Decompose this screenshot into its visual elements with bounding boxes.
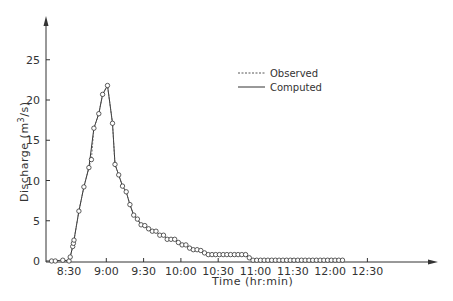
- x-tick-label: 12:30: [352, 265, 384, 278]
- x-tick-label: 9:00: [94, 265, 119, 278]
- y-tick-label: 5: [33, 215, 40, 228]
- observed-marker: [97, 112, 101, 116]
- observed-marker: [110, 121, 114, 125]
- observed-marker: [87, 165, 91, 169]
- observed-marker: [92, 126, 96, 130]
- observed-marker: [173, 237, 177, 241]
- x-axis-title: Time (hr:min): [211, 275, 293, 288]
- observed-marker: [154, 229, 158, 233]
- observed-marker: [61, 258, 65, 262]
- observed-marker: [124, 190, 128, 194]
- observed-marker: [161, 233, 165, 237]
- x-tick-label: 8:30: [57, 265, 82, 278]
- axes: [44, 16, 439, 265]
- observed-marker: [117, 173, 121, 177]
- observed-marker: [184, 243, 188, 247]
- x-tick-label: 12:00: [314, 265, 346, 278]
- computed-line: [52, 86, 343, 262]
- y-axis-title-prefix: Discharge (m: [18, 122, 31, 202]
- observed-line: [52, 86, 343, 262]
- observed-marker: [72, 238, 76, 242]
- y-axis-arrow-icon: [44, 16, 49, 26]
- observed-marker: [77, 209, 81, 213]
- legend-computed-label: Computed: [270, 82, 322, 93]
- y-axis-title-suffix: /s): [18, 102, 31, 117]
- observed-marker: [135, 217, 139, 221]
- y-tick-label: 25: [26, 54, 40, 67]
- observed-marker: [105, 83, 109, 87]
- observed-marker: [143, 223, 147, 227]
- y-tick-label: 0: [33, 255, 40, 268]
- series: [49, 83, 344, 263]
- hydrograph-chart: 0510152025 8:309:009:3010:0010:3011:0011…: [0, 0, 453, 301]
- x-tick-label: 9:30: [131, 265, 156, 278]
- x-axis-arrow-icon: [428, 260, 438, 265]
- observed-marker: [82, 185, 86, 189]
- observed-marker: [340, 258, 344, 262]
- observed-marker: [100, 92, 104, 96]
- observed-marker: [128, 202, 132, 206]
- observed-marker: [120, 184, 124, 188]
- legend: Observed Computed: [238, 68, 322, 93]
- observed-marker: [89, 157, 93, 161]
- x-tick-label: 10:00: [165, 265, 197, 278]
- observed-marker: [113, 162, 117, 166]
- y-axis-title: Discharge (m3/s): [17, 102, 31, 202]
- observed-marker: [132, 213, 136, 217]
- legend-observed-label: Observed: [270, 68, 318, 79]
- observed-marker: [243, 252, 247, 256]
- observed-marker: [53, 259, 57, 263]
- observed-marker: [68, 255, 72, 259]
